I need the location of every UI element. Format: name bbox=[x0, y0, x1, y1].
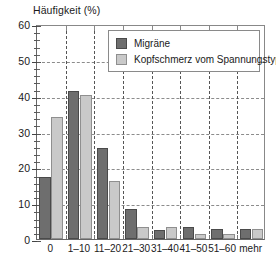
y-axis-title: Häufigkeit (%) bbox=[33, 4, 100, 16]
y-axis-label-40: 40 bbox=[0, 91, 30, 103]
legend-item-spannungstyp: Kopfschmerz vom Spannungstyp bbox=[116, 52, 253, 66]
bar-spannungstyp-11-20 bbox=[109, 181, 120, 239]
bar-migraene-0 bbox=[39, 177, 50, 239]
bar-spannungstyp-0 bbox=[51, 117, 62, 239]
y-tick-inner-22 bbox=[37, 162, 40, 163]
bottom-tick-2 bbox=[94, 235, 95, 239]
bar-spannungstyp-41-50 bbox=[195, 234, 206, 239]
y-tick-inner-40 bbox=[37, 98, 41, 99]
bar-migraene-41-50 bbox=[183, 227, 194, 239]
gridline-x-1 bbox=[66, 26, 67, 239]
y-tick-inner-52 bbox=[37, 55, 40, 56]
bar-spannungstyp-21-30 bbox=[137, 227, 148, 239]
x-axis-label-0: 0 bbox=[48, 243, 54, 254]
bar-migraene-mehr bbox=[240, 229, 251, 239]
bottom-tick-5 bbox=[180, 235, 181, 239]
y-axis-label-50: 50 bbox=[0, 55, 30, 67]
gridline-x-2 bbox=[94, 26, 95, 239]
bar-migraene-31-40 bbox=[154, 230, 165, 239]
bar-chart: Häufigkeit (%) 0102030405060 01–1011–202… bbox=[0, 0, 276, 269]
bar-migraene-21-30 bbox=[125, 209, 136, 239]
y-tick-inner-24 bbox=[37, 155, 40, 156]
x-axis-label-41-50: 41–50 bbox=[180, 243, 208, 254]
y-tick-inner-48 bbox=[37, 69, 40, 70]
bar-spannungstyp-1-10 bbox=[80, 95, 91, 239]
bar-migraene-11-20 bbox=[97, 148, 108, 239]
y-tick-inner-20 bbox=[37, 169, 41, 170]
chart-legend: Migräne Kopfschmerz vom Spannungstyp bbox=[108, 30, 260, 72]
y-axis-label-10: 10 bbox=[0, 198, 30, 210]
y-tick-inner-28 bbox=[37, 141, 40, 142]
y-tick-inner-26 bbox=[37, 148, 40, 149]
top-tick-1 bbox=[66, 26, 67, 31]
bottom-tick-3 bbox=[123, 235, 124, 239]
legend-label-migraene: Migräne bbox=[134, 38, 170, 49]
bar-spannungstyp-51-60 bbox=[223, 234, 234, 239]
y-axis-label-0: 0 bbox=[0, 234, 30, 246]
bottom-tick-4 bbox=[152, 235, 153, 239]
bottom-tick-1 bbox=[66, 235, 67, 239]
x-axis-label-mehr: mehr bbox=[239, 243, 262, 254]
y-axis-label-30: 30 bbox=[0, 127, 30, 139]
bar-spannungstyp-31-40 bbox=[166, 227, 177, 239]
y-tick-inner-44 bbox=[37, 83, 40, 84]
bar-migraene-51-60 bbox=[211, 229, 222, 239]
y-tick-inner-42 bbox=[37, 91, 40, 92]
y-axis-label-60: 60 bbox=[0, 19, 30, 31]
y-axis-label-20: 20 bbox=[0, 162, 30, 174]
legend-swatch-icon-spannungstyp bbox=[116, 54, 127, 65]
y-tick-inner-34 bbox=[37, 119, 40, 120]
y-tick-inner-56 bbox=[37, 40, 40, 41]
bottom-tick-6 bbox=[209, 235, 210, 239]
x-axis-label-31-40: 31–40 bbox=[151, 243, 179, 254]
y-tick-inner-46 bbox=[37, 76, 40, 77]
y-tick-inner-38 bbox=[37, 105, 40, 106]
y-tick-inner-58 bbox=[37, 33, 40, 34]
bottom-tick-7 bbox=[237, 235, 238, 239]
legend-item-migraene: Migräne bbox=[116, 36, 253, 50]
y-tick-inner-50 bbox=[37, 62, 41, 63]
bar-spannungstyp-mehr bbox=[252, 229, 263, 239]
y-tick-inner-0 bbox=[37, 241, 41, 242]
x-axis-label-1-10: 1–10 bbox=[68, 243, 90, 254]
legend-swatch-icon-migraene bbox=[116, 38, 127, 49]
y-tick-inner-36 bbox=[37, 112, 40, 113]
y-tick-inner-32 bbox=[37, 126, 40, 127]
y-tick-inner-54 bbox=[37, 48, 40, 49]
x-axis-label-11-20: 11–20 bbox=[94, 243, 121, 254]
y-tick-inner-60 bbox=[37, 26, 41, 27]
top-tick-2 bbox=[94, 26, 95, 31]
legend-label-spannungstyp: Kopfschmerz vom Spannungstyp bbox=[134, 54, 276, 65]
x-axis-label-21-30: 21–30 bbox=[122, 243, 150, 254]
bar-migraene-1-10 bbox=[68, 91, 79, 239]
y-tick-inner-30 bbox=[37, 134, 41, 135]
x-axis-label-51-60: 51–60 bbox=[208, 243, 236, 254]
